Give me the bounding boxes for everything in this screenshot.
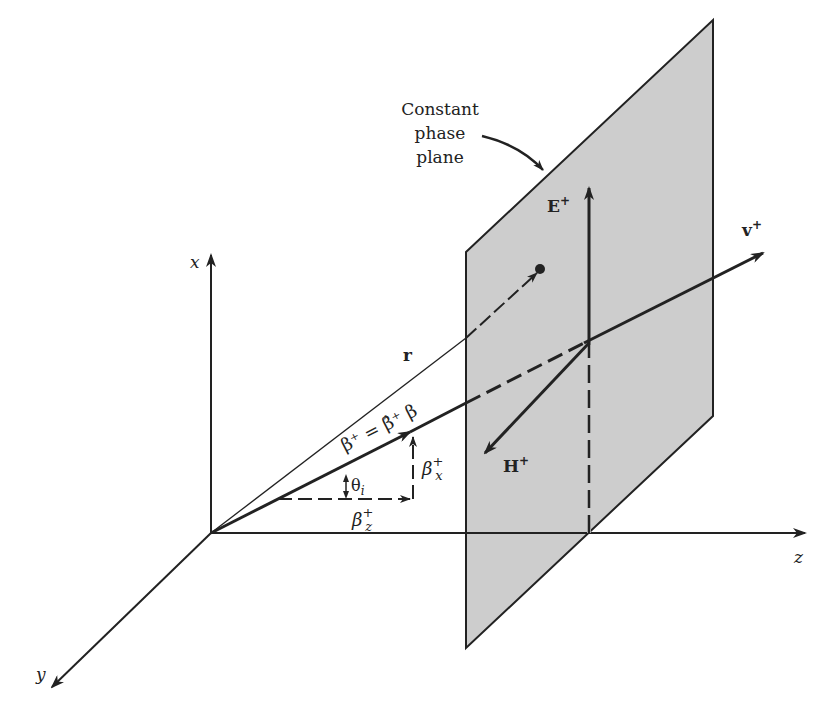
wave-diagram: Constant phase plane x y z E+ H+ v+ r β⁺… <box>0 0 830 712</box>
plane-label-line-1: Constant <box>401 99 479 119</box>
plane-label-line-2: phase <box>415 123 466 143</box>
plane-label-line-3: plane <box>416 147 463 167</box>
theta-label: θi <box>351 476 365 498</box>
r-label: r <box>403 345 413 365</box>
z-axis-label: z <box>793 547 804 567</box>
x-axis-label: x <box>190 252 200 272</box>
y-axis-label: y <box>35 664 46 684</box>
y-axis <box>52 533 211 687</box>
beta-x-label: β+x <box>421 454 443 483</box>
beta-vector <box>211 432 410 533</box>
observation-point <box>535 264 545 274</box>
v-label: v+ <box>741 218 762 240</box>
beta-z-label: β+z <box>351 505 373 534</box>
plane-label-arrow <box>482 136 543 170</box>
